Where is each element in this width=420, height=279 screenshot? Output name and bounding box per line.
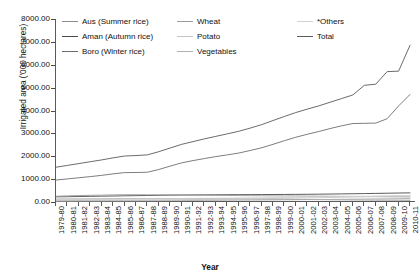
legend-color-swatch — [297, 36, 313, 37]
y-axis-tick-label: 8000.00 — [4, 15, 50, 23]
x-axis-tick-label: 2007-08 — [378, 206, 386, 234]
y-axis-tick-mark — [51, 179, 55, 180]
legend-color-swatch — [62, 51, 78, 52]
x-axis-tick-label: 2006-07 — [367, 206, 375, 234]
series-line — [56, 94, 410, 180]
legend-item: Wheat — [177, 17, 297, 26]
legend-color-swatch — [177, 51, 193, 52]
y-axis-tick-mark — [51, 65, 55, 66]
legend-item-label: Boro (Winter rice) — [82, 47, 145, 56]
legend-item-label: Aus (Summer rice) — [82, 17, 149, 26]
y-axis-tick-label: 7000.00 — [4, 38, 50, 46]
chart-legend: Aus (Summer rice)Wheat*OthersAman (Autum… — [62, 14, 410, 59]
legend-item-label: Potato — [197, 32, 220, 41]
x-axis-tick-label: 1981-82 — [81, 206, 89, 234]
y-axis-tick-label: 0.00 — [4, 198, 50, 206]
x-axis-tick-label: 1991-92 — [195, 206, 203, 234]
y-axis-tick-mark — [51, 156, 55, 157]
y-axis-tick-mark — [51, 19, 55, 20]
y-axis-tick-mark — [51, 133, 55, 134]
legend-item-label: Total — [317, 32, 334, 41]
legend-color-swatch — [177, 21, 193, 22]
x-axis-tick-label: 1984-85 — [115, 206, 123, 234]
x-axis-tick-label: 2002-03 — [321, 206, 329, 234]
x-axis-tick-label: 2005-06 — [355, 206, 363, 234]
x-axis-tick-label: 2003-04 — [332, 206, 340, 234]
x-axis-tick-label: 1998-99 — [275, 206, 283, 234]
x-axis-tick-label: 1997-98 — [264, 206, 272, 234]
x-axis-tick-label: 1986-87 — [138, 206, 146, 234]
x-axis-tick-label: 2008-09 — [390, 206, 398, 234]
x-axis-tick-label: 2000-01 — [298, 206, 306, 234]
legend-item: Aus (Summer rice) — [62, 17, 177, 26]
legend-item-label: Aman (Autumn rice) — [82, 32, 153, 41]
y-axis-tick-label: 4000.00 — [4, 107, 50, 115]
y-axis-tick-label: 1000.00 — [4, 175, 50, 183]
x-axis-tick-label: 2001-02 — [310, 206, 318, 234]
chart-figure: Irrigated area ('000 hectares) 0.001000.… — [0, 0, 420, 279]
x-axis-tick-label: 1987-88 — [150, 206, 158, 234]
legend-item-label: *Others — [317, 17, 344, 26]
legend-color-swatch — [177, 36, 193, 37]
y-axis-tick-label: 2000.00 — [4, 152, 50, 160]
x-axis-tick-label: 2009-10 — [401, 206, 409, 234]
x-axis-tick-label: 1989-90 — [173, 206, 181, 234]
y-axis-tick-label: 5000.00 — [4, 84, 50, 92]
x-axis-tick-label: 2010-11 — [412, 206, 420, 233]
legend-color-swatch — [62, 36, 78, 37]
legend-item: Vegetables — [177, 47, 297, 56]
x-axis-title: Year — [0, 262, 420, 272]
y-axis-tick-mark — [51, 202, 55, 203]
legend-color-swatch — [62, 21, 78, 22]
y-axis-tick-mark — [51, 42, 55, 43]
x-axis-tick-label: 1982-83 — [93, 206, 101, 234]
x-axis-tick-label: 1990-91 — [184, 206, 192, 234]
x-axis-tick-label: 2004-05 — [344, 206, 352, 234]
series-line — [56, 45, 410, 167]
x-axis-tick-label: 1999-00 — [287, 206, 295, 234]
x-axis-tick-label: 1992-93 — [207, 206, 215, 234]
x-axis-tick-labels: 1979-801980-811981-821982-831983-841984-… — [55, 206, 415, 254]
x-axis-tick-label: 1994-95 — [230, 206, 238, 234]
y-axis-tick-label: 3000.00 — [4, 129, 50, 137]
legend-item-label: Vegetables — [197, 47, 237, 56]
y-axis-tick-mark — [51, 111, 55, 112]
legend-item-label: Wheat — [197, 17, 220, 26]
y-axis-tick-mark — [51, 88, 55, 89]
x-axis-tick-label: 1995-96 — [241, 206, 249, 234]
legend-item: Aman (Autumn rice) — [62, 32, 177, 41]
legend-item: Boro (Winter rice) — [62, 47, 177, 56]
legend-color-swatch — [297, 21, 313, 22]
x-axis-tick-label: 1988-89 — [161, 206, 169, 234]
x-axis-tick-label: 1979-80 — [58, 206, 66, 234]
legend-item: *Others — [297, 17, 412, 26]
x-axis-tick-label: 1980-81 — [70, 206, 78, 234]
legend-item: Potato — [177, 32, 297, 41]
x-axis-tick-label: 1983-84 — [104, 206, 112, 234]
legend-item: Total — [297, 32, 412, 41]
x-axis-tick-label: 1985-86 — [127, 206, 135, 234]
x-axis-tick-label: 1996-97 — [253, 206, 261, 234]
x-axis-tick-label: 1993-94 — [218, 206, 226, 234]
y-axis-tick-labels: 0.001000.002000.003000.004000.005000.006… — [4, 0, 50, 279]
y-axis-tick-label: 6000.00 — [4, 61, 50, 69]
